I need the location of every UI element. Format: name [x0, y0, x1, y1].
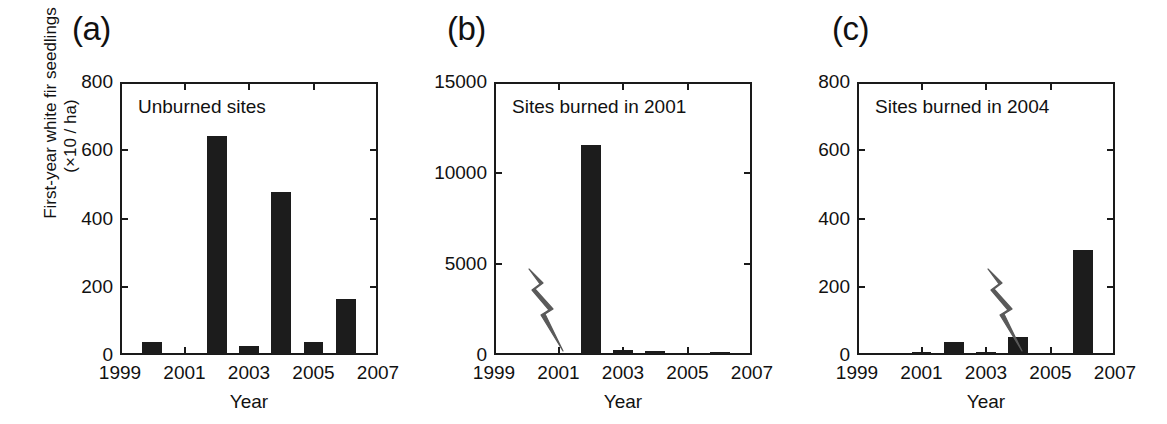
y-tick-mark: [1107, 286, 1115, 288]
y-tick-mark: [1107, 218, 1115, 220]
bar: [1073, 250, 1093, 354]
y-tick-label: 600: [818, 139, 850, 161]
x-tick-label: 2003: [965, 362, 1007, 384]
lightning-bolt-icon: [982, 267, 1024, 353]
bar: [912, 352, 932, 354]
y-tick-label: 400: [818, 208, 850, 230]
x-tick-label: 1999: [836, 362, 878, 384]
y-tick-label: 200: [818, 276, 850, 298]
figure-root: (a) (b) (c) First-year white fir seedlin…: [0, 0, 1167, 424]
x-tick-label: 2005: [1029, 362, 1071, 384]
x-tick-mark: [985, 82, 987, 90]
y-tick-mark: [1107, 149, 1115, 151]
x-axis-title: Year: [967, 391, 1005, 413]
x-tick-mark: [921, 82, 923, 90]
y-tick-mark: [857, 218, 865, 220]
y-tick-mark: [857, 286, 865, 288]
x-tick-mark: [1050, 82, 1052, 90]
y-tick-mark: [857, 149, 865, 151]
bar: [944, 342, 964, 354]
x-tick-mark: [1050, 347, 1052, 355]
panel-caption: Sites burned in 2004: [875, 96, 1049, 118]
y-tick-label: 800: [818, 71, 850, 93]
x-tick-label: 2001: [900, 362, 942, 384]
x-tick-label: 2007: [1094, 362, 1136, 384]
chart-panel-c: Sites burned in 200402004006008001999200…: [0, 0, 1167, 424]
